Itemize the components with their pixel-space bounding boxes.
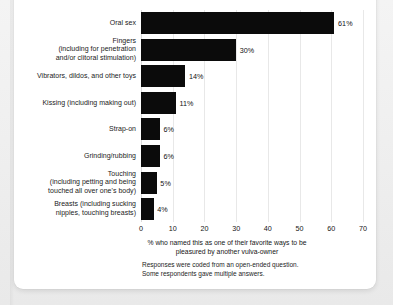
chart-footnote: Responses were coded from an open-ended … xyxy=(142,261,372,279)
bar-row: Fingers (including for penetration and/o… xyxy=(141,39,363,61)
x-tick-label: 10 xyxy=(169,224,177,233)
bar-row: Touching (including petting and being to… xyxy=(141,172,363,194)
gridline-70 xyxy=(363,10,364,222)
page-root: Oral sex61%Fingers (including for penetr… xyxy=(0,0,393,305)
bar xyxy=(141,92,176,114)
bar xyxy=(141,172,157,194)
bar-value-label: 11% xyxy=(179,98,193,107)
bar xyxy=(141,198,154,220)
bar xyxy=(141,118,160,140)
x-axis-label: % who named this as one of their favorit… xyxy=(102,239,352,257)
bar-category-label: Breasts (including sucking nipples, touc… xyxy=(12,201,136,218)
bar-category-label: Touching (including petting and being to… xyxy=(12,170,136,196)
bar-value-label: 6% xyxy=(164,125,175,134)
bar-value-label: 5% xyxy=(160,178,171,187)
bar xyxy=(141,12,334,34)
bar xyxy=(141,39,236,61)
bar-row: Kissing (including making out)11% xyxy=(141,92,363,114)
x-tick-label: 0 xyxy=(139,224,143,233)
x-tick-label: 60 xyxy=(327,224,335,233)
bar xyxy=(141,65,185,87)
bar-category-label: Vibrators, dildos, and other toys xyxy=(12,72,136,81)
bar-category-label: Fingers (including for penetration and/o… xyxy=(12,37,136,63)
bar-row: Vibrators, dildos, and other toys14% xyxy=(141,65,363,87)
bar-value-label: 30% xyxy=(240,45,255,54)
x-tick-label: 40 xyxy=(264,224,272,233)
x-tick-label: 70 xyxy=(359,224,367,233)
bar-category-label: Oral sex xyxy=(12,19,136,28)
bar-value-label: 4% xyxy=(157,205,168,214)
plot-area: Oral sex61%Fingers (including for penetr… xyxy=(141,10,363,222)
bar-row: Oral sex61% xyxy=(141,12,363,34)
bar xyxy=(141,145,160,167)
bar-category-label: Strap-on xyxy=(12,125,136,134)
x-tick-label: 20 xyxy=(200,224,208,233)
bar-value-label: 14% xyxy=(189,72,204,81)
bar-value-label: 61% xyxy=(338,19,353,28)
x-tick-label: 30 xyxy=(232,224,240,233)
bar-row: Grinding/rubbing6% xyxy=(141,145,363,167)
bar-category-label: Kissing (including making out) xyxy=(12,99,136,108)
bar-chart: Oral sex61%Fingers (including for penetr… xyxy=(14,0,376,305)
x-tick-label: 50 xyxy=(296,224,304,233)
bar-value-label: 6% xyxy=(164,152,175,161)
bar-category-label: Grinding/rubbing xyxy=(12,152,136,161)
x-axis-ticks: 010203040506070 xyxy=(141,224,363,236)
bar-row: Breasts (including sucking nipples, touc… xyxy=(141,198,363,220)
bar-row: Strap-on6% xyxy=(141,118,363,140)
